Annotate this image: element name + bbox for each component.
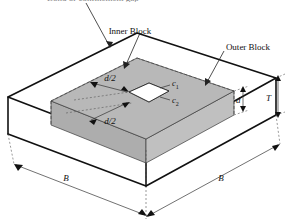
figure-container: Bond or confinement gap <box>0 0 287 221</box>
leader-top-gap <box>86 3 110 47</box>
d-extension-bottom <box>234 110 249 115</box>
inner-block-label: Inner Block <box>109 26 152 36</box>
B-right-extension-outer <box>276 115 280 144</box>
gap-upper-label: d/2 <box>104 73 116 83</box>
B-left-arrow-end <box>138 209 147 216</box>
plan-width-left-label: B <box>63 173 69 183</box>
B-left-dimension-line <box>16 165 145 215</box>
inner-thickness-label: d <box>236 95 241 105</box>
d-arrow-bottom <box>240 106 246 112</box>
B-right-arrow-start <box>146 210 155 217</box>
block-diagram-svg: Inner Block Outer Block d/2 d/2 c1 c2 d … <box>0 0 287 221</box>
total-thickness-label: T <box>266 93 272 103</box>
gap-lower-label: d/2 <box>104 116 116 126</box>
leader-top-gap-arrowhead <box>106 41 113 48</box>
d-arrow-top <box>240 86 246 92</box>
B-left-extension-outer <box>8 134 14 164</box>
B-right-dimension-line <box>148 145 278 216</box>
plan-width-right-label: B <box>218 173 224 183</box>
outer-block-label: Outer Block <box>226 42 271 52</box>
inner-block <box>51 58 234 163</box>
B-right-arrow-end <box>272 144 280 151</box>
